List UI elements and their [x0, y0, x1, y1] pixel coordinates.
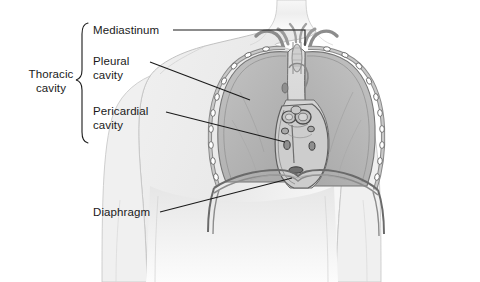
thoracic-cavity-figure: Thoracic cavity Mediastinum Pleural cavi… [0, 0, 480, 282]
anatomy-illustration [0, 0, 480, 282]
label-diaphragm: Diaphragm [93, 206, 150, 220]
label-mediastinum: Mediastinum [93, 24, 159, 38]
label-thoracic-cavity: Thoracic cavity [22, 68, 80, 95]
label-pericardial-cavity: Pericardial cavity [93, 105, 148, 132]
label-pleural-cavity: Pleural cavity [93, 55, 130, 82]
